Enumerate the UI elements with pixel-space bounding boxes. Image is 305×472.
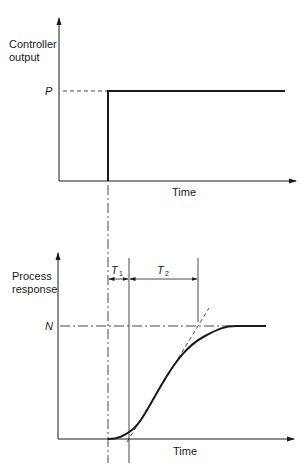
t1-label: T [111,264,119,276]
top-y-label-line1: Controller [9,38,57,50]
controller-step-signal [108,91,285,181]
t2-subscript: 2 [165,270,169,277]
t2-label: T [157,264,165,276]
step-response-diagram: Controller output P Time Process respons… [0,0,305,472]
top-y-label-line2: output [9,51,40,63]
process-response-chart: Process response N T 1 T 2 Time [12,253,294,463]
bottom-y-label-line1: Process [12,270,52,282]
bottom-y-label-line2: response [12,283,57,295]
level-p-label: P [45,85,53,97]
process-response-curve [108,326,266,439]
bottom-x-label: Time [173,445,197,457]
top-x-label: Time [172,186,196,198]
t1-subscript: 1 [119,270,123,277]
level-n-label: N [45,320,53,332]
controller-output-chart: Controller output P Time [9,18,296,198]
